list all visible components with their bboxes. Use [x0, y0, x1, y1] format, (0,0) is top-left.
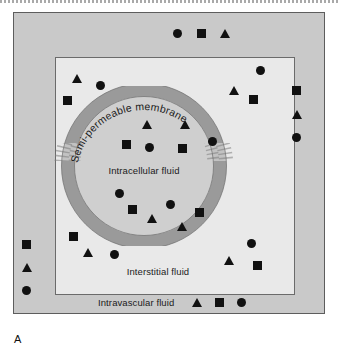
particle-triangle-intravascular-4	[292, 110, 302, 119]
particle-square-intracellular-4	[178, 144, 187, 153]
particle-circle-intracellular-6	[115, 189, 124, 198]
legend-marker-triangle	[192, 298, 202, 307]
particle-square-intravascular-1	[197, 29, 206, 38]
particle-triangle-intravascular-7	[22, 263, 32, 272]
particle-circle-interstitial-8	[110, 250, 119, 259]
particle-triangle-intravascular-2	[220, 29, 230, 38]
particle-circle-interstitial-9	[247, 239, 256, 248]
interstitial-fluid-label: Interstitial fluid	[110, 266, 206, 277]
intravascular-legend	[192, 297, 246, 308]
particle-circle-intravascular-8	[22, 286, 31, 295]
top-divider-rule	[0, 0, 339, 3]
particle-triangle-intracellular-9	[147, 214, 157, 223]
particle-square-intracellular-10	[195, 208, 204, 217]
particle-circle-intracellular-5	[208, 137, 217, 146]
particle-circle-intracellular-8	[166, 200, 175, 209]
legend-marker-circle	[237, 298, 246, 307]
particle-circle-interstitial-3	[256, 66, 265, 75]
particle-triangle-interstitial-4	[229, 86, 239, 95]
particle-square-interstitial-5	[249, 95, 258, 104]
particle-circle-intravascular-0	[173, 29, 182, 38]
particle-triangle-interstitial-7	[83, 248, 93, 257]
particle-square-intracellular-7	[128, 205, 137, 214]
particle-triangle-interstitial-0	[72, 74, 82, 83]
particle-square-intracellular-2	[122, 140, 131, 149]
panel-letter: A	[14, 333, 21, 345]
intracellular-fluid-label: Intracellular fluid	[96, 165, 192, 176]
particle-triangle-intracellular-1	[180, 120, 190, 129]
particle-square-intravascular-3	[292, 86, 301, 95]
particle-square-intravascular-6	[22, 240, 31, 249]
particle-circle-intravascular-5	[292, 133, 301, 142]
particle-triangle-intracellular-11	[177, 222, 187, 231]
particle-square-interstitial-11	[253, 261, 262, 270]
particle-triangle-intracellular-0	[142, 120, 152, 129]
particle-circle-intracellular-3	[145, 143, 154, 152]
particle-triangle-interstitial-10	[224, 256, 234, 265]
intravascular-fluid-label: Intravascular fluid	[98, 297, 174, 308]
particle-square-interstitial-2	[63, 96, 72, 105]
particle-circle-interstitial-1	[96, 81, 105, 90]
particle-square-interstitial-6	[69, 232, 78, 241]
legend-marker-square	[215, 298, 224, 307]
